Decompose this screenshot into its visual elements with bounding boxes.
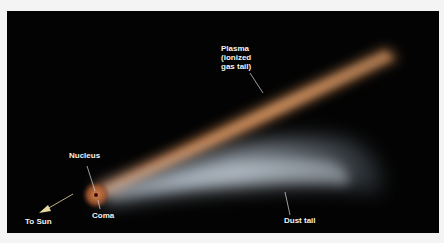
comet-diagram: Plasma (ionized gas tail) Nucleus Coma T… (7, 11, 439, 233)
to-sun-label: To Sun (25, 217, 52, 226)
plasma-label-line2: (ionized (221, 53, 251, 62)
plasma-label-line1: Plasma (221, 44, 251, 53)
coma-label: Coma (92, 211, 114, 220)
nucleus-label: Nucleus (69, 151, 100, 160)
dust-tail-label: Dust tail (284, 216, 316, 225)
plasma-leader-line (250, 73, 263, 93)
dust-leader-line (285, 192, 290, 215)
plasma-tail-label: Plasma (ionized gas tail) (221, 44, 251, 71)
nucleus (94, 193, 98, 197)
to-sun-arrow-icon (39, 194, 73, 213)
plasma-label-line3: gas tail) (221, 62, 251, 71)
